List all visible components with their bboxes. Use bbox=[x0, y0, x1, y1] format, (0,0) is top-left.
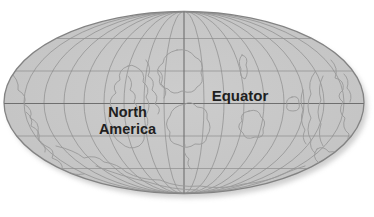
paleo-world-map: North America Equator bbox=[0, 0, 374, 217]
map-figure: North America Equator bbox=[0, 0, 374, 217]
label-north-america-line1: North bbox=[108, 104, 147, 120]
label-north-america-line2: America bbox=[99, 121, 157, 137]
label-equator: Equator bbox=[212, 87, 269, 104]
